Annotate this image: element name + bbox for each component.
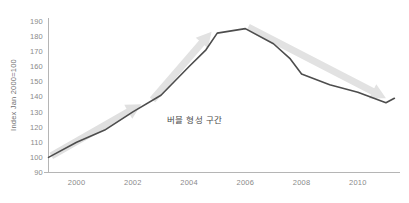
y-tick-label: 140 (30, 92, 43, 101)
y-axis-title: Index Jan 2000=100 (9, 59, 18, 131)
rise-arrow-lower (50, 104, 142, 159)
y-tick-label: 160 (30, 62, 43, 71)
y-tick-label: 90 (34, 168, 43, 177)
y-axis-tick-labels: 90100110120130140150160170180190 (30, 17, 43, 177)
y-tick-label: 150 (30, 77, 43, 86)
y-tick-label: 110 (30, 138, 43, 147)
rise-arrow-upper (150, 32, 212, 103)
chart-axes (44, 18, 400, 173)
bubble-zone-annotation: 버블 형성 구간 (167, 115, 222, 125)
x-tick-label: 2004 (180, 178, 198, 187)
line-chart: 90100110120130140150160170180190 2000200… (0, 0, 409, 203)
trend-arrows (50, 24, 386, 159)
y-tick-label: 100 (30, 153, 43, 162)
data-series-group (49, 29, 395, 158)
decline-arrow (247, 24, 386, 99)
chart-container: 90100110120130140150160170180190 2000200… (0, 0, 409, 203)
x-tick-label: 2000 (68, 178, 86, 187)
x-tick-label: 2010 (349, 178, 367, 187)
y-tick-label: 190 (30, 17, 43, 26)
x-tick-label: 2006 (237, 178, 255, 187)
x-axis-tick-labels: 200020022004200620082010 (68, 178, 367, 187)
y-tick-label: 180 (30, 32, 43, 41)
y-tick-label: 170 (30, 47, 43, 56)
y-tick-label: 120 (30, 123, 43, 132)
data-series-line (49, 29, 395, 158)
x-tick-label: 2008 (293, 178, 311, 187)
y-tick-label: 130 (30, 108, 43, 117)
x-tick-label: 2002 (124, 178, 142, 187)
